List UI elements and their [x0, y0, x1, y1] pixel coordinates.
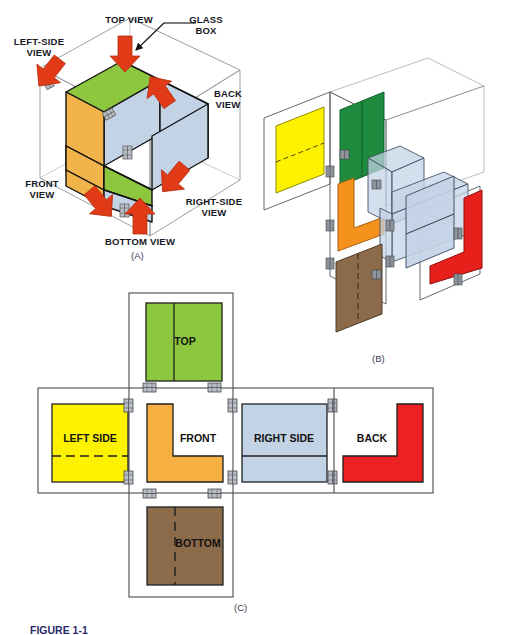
label-bottom-view: BOTTOM VIEW — [94, 236, 186, 247]
panel-a-letter: (A) — [131, 250, 144, 261]
view-label-back: BACK — [357, 432, 388, 444]
hinge-icon — [124, 471, 133, 484]
label-top-view: TOP VIEW — [96, 14, 162, 25]
label-left-side-view: LEFT-SIDE VIEW — [6, 36, 72, 58]
hinge-icon — [326, 258, 334, 269]
hinge-icon — [326, 166, 334, 177]
hinge-icon — [228, 471, 237, 484]
view-label-right-side: RIGHT SIDE — [254, 432, 314, 444]
hinge-icon — [326, 220, 334, 231]
hinge-icon — [143, 383, 156, 392]
view-label-front: FRONT — [180, 432, 217, 444]
hinge-icon — [120, 204, 129, 217]
view-label-bottom: BOTTOM — [175, 537, 221, 549]
hinge-icon — [143, 489, 156, 498]
hinge-icon — [386, 220, 394, 231]
view-label-top: TOP — [174, 335, 195, 347]
hinge-icon — [372, 180, 381, 189]
figure-caption-label: FIGURE 1-1 — [30, 624, 88, 635]
hinge-icon — [340, 150, 349, 159]
hinge-icon — [208, 489, 221, 498]
hinge-icon — [372, 270, 381, 279]
label-glass-box: GLASS BOX — [176, 14, 236, 36]
hinge-icon — [124, 399, 133, 412]
plane-left-side — [276, 107, 324, 193]
hinge-icon — [454, 274, 462, 285]
hinge-icon — [228, 399, 237, 412]
hinge-icon — [123, 146, 132, 159]
panel-c-graphic: TOP LEFT SIDE FRONT RIGHT SIDE BACK BOTT… — [30, 285, 450, 605]
panel-c-letter: (C) — [234, 602, 247, 613]
label-front-view: FRONT VIEW — [16, 178, 68, 200]
figure-caption: FIGURE 1-1 — [30, 624, 88, 635]
hinge-icon — [454, 228, 462, 239]
hinge-icon — [208, 383, 221, 392]
figure-root: TOP VIEW LEFT-SIDE VIEW GLASS BOX BACK V… — [0, 0, 512, 635]
label-back-view: BACK VIEW — [202, 88, 254, 110]
hinge-icon — [386, 256, 394, 267]
view-label-left-side: LEFT SIDE — [63, 432, 117, 444]
label-right-side-view: RIGHT-SIDE VIEW — [178, 196, 250, 218]
hinge-icon — [328, 471, 337, 484]
hinge-icon — [328, 399, 337, 412]
